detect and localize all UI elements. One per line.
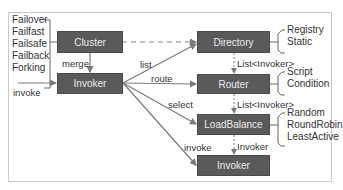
loadbalance-type: Random bbox=[287, 107, 343, 119]
router-types-list: Script Condition bbox=[287, 66, 329, 90]
directory-type: Registry bbox=[287, 24, 324, 36]
directory-node: Directory bbox=[197, 31, 270, 53]
merge-label: merge bbox=[62, 58, 89, 69]
loadbalance-type: LeastActive bbox=[287, 131, 343, 143]
cluster-type: Failover bbox=[12, 14, 49, 26]
cluster-type: Failback bbox=[12, 50, 49, 62]
invoke-in-label: invoke bbox=[13, 87, 40, 98]
directory-types-list: Registry Static bbox=[287, 24, 324, 48]
cluster-types-list: Failover Failfast Failsafe Failback Fork… bbox=[12, 14, 49, 74]
loadbalance-node: LoadBalance bbox=[197, 114, 270, 135]
dir-router-label: List<Invoker> bbox=[237, 58, 294, 69]
cluster-node: Cluster bbox=[57, 31, 123, 53]
invoker-node-left: Invoker bbox=[57, 73, 123, 94]
loadbalance-types-list: Random RoundRobin LeastActive bbox=[287, 107, 343, 143]
router-node: Router bbox=[197, 74, 270, 94]
cluster-type: Failsafe bbox=[12, 38, 49, 50]
cluster-type: Forking bbox=[12, 62, 49, 74]
loadbalance-type: RoundRobin bbox=[287, 119, 343, 131]
list-label: list bbox=[140, 59, 152, 70]
lb-invoker-label: Invoker bbox=[237, 141, 268, 152]
directory-type: Static bbox=[287, 36, 324, 48]
router-type: Condition bbox=[287, 78, 329, 90]
route-label: route bbox=[151, 73, 173, 84]
invoker-node-bottom: Invoker bbox=[197, 155, 270, 176]
router-type: Script bbox=[287, 66, 329, 78]
invoke-out-label: invoke bbox=[184, 142, 211, 153]
select-label: select bbox=[168, 99, 193, 110]
cluster-type: Failfast bbox=[12, 26, 49, 38]
router-lb-label: List<Invoker> bbox=[237, 99, 294, 110]
